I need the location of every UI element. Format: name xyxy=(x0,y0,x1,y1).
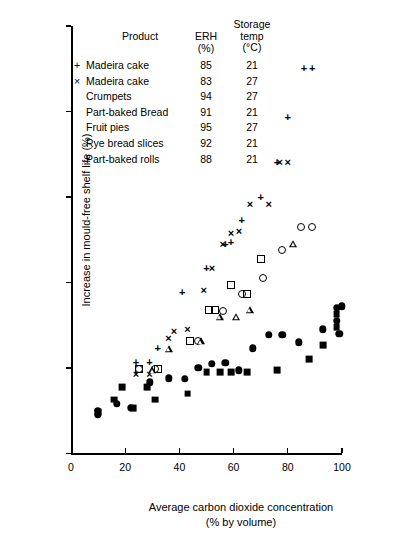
figure-scatter-plot: Product ERH (%) Storage temp (°C) +Madei… xyxy=(0,0,413,535)
y-axis-title: Increase in mould-free shelf life (%) xyxy=(80,70,92,370)
marker-filled-circle xyxy=(279,331,286,338)
x-axis-title-line1: Average carbon dioxide concentration xyxy=(71,500,411,515)
marker-filled-circle xyxy=(222,359,229,366)
x-axis-title-line2: (% by volume) xyxy=(71,515,411,530)
marker-filled-circle xyxy=(181,375,188,382)
x-tick-label: 80 xyxy=(273,462,303,473)
marker-filled-square xyxy=(130,405,137,412)
marker-filled-square xyxy=(306,356,313,363)
y-tick xyxy=(66,367,71,368)
x-tick xyxy=(233,448,234,453)
marker-filled-circle xyxy=(235,367,242,374)
marker-filled-square xyxy=(119,383,126,390)
marker-filled-circle xyxy=(336,330,343,337)
marker-open-circle xyxy=(297,223,305,231)
marker-filled-circle xyxy=(265,331,272,338)
x-axis-title: Average carbon dioxide concentration (% … xyxy=(71,500,411,530)
marker-filled-circle xyxy=(295,339,302,346)
x-tick-label: 60 xyxy=(219,462,249,473)
marker-filled-square xyxy=(244,369,251,376)
marker-open-circle xyxy=(278,246,286,254)
y-tick xyxy=(66,111,71,112)
marker-open-triangle xyxy=(232,313,240,320)
marker-open-triangle xyxy=(165,345,173,352)
x-tick-label: 0 xyxy=(56,462,86,473)
y-tick xyxy=(66,282,71,283)
marker-filled-square xyxy=(143,383,150,390)
marker-filled-circle xyxy=(208,360,215,367)
x-tick xyxy=(341,448,342,453)
x-axis-line xyxy=(71,453,342,455)
marker-filled-circle xyxy=(338,303,345,310)
plot-area: 0100200300400500 020406080100 ++++++++++… xyxy=(0,0,413,535)
marker-open-triangle xyxy=(148,367,156,374)
marker-filled-square xyxy=(333,323,340,330)
marker-filled-square xyxy=(320,341,327,348)
y-axis-line xyxy=(71,26,73,455)
marker-filled-circle xyxy=(249,345,256,352)
axes: 0100200300400500 020406080100 ++++++++++… xyxy=(71,26,342,455)
marker-filled-circle xyxy=(165,374,172,381)
marker-open-circle xyxy=(259,274,267,282)
x-tick xyxy=(125,448,126,453)
marker-filled-square xyxy=(184,390,191,397)
marker-filled-square xyxy=(203,369,210,376)
marker-filled-square xyxy=(227,369,234,376)
x-tick-label: 100 xyxy=(327,462,357,473)
y-tick xyxy=(66,196,71,197)
marker-open-square xyxy=(227,281,235,289)
marker-open-square xyxy=(257,255,265,263)
marker-filled-square xyxy=(333,311,340,318)
marker-filled-square xyxy=(111,396,118,403)
x-tick-label: 40 xyxy=(164,462,194,473)
marker-open-triangle xyxy=(216,313,224,320)
y-tick xyxy=(66,25,71,26)
marker-filled-square xyxy=(274,367,281,374)
marker-open-triangle xyxy=(197,338,205,345)
marker-filled-square xyxy=(95,409,102,416)
marker-open-square xyxy=(135,365,143,373)
y-tick xyxy=(66,453,71,454)
marker-open-triangle xyxy=(246,306,254,313)
marker-open-triangle xyxy=(289,240,297,247)
marker-open-circle xyxy=(308,223,316,231)
marker-open-square xyxy=(186,337,194,345)
marker-filled-circle xyxy=(195,364,202,371)
marker-open-square xyxy=(243,290,251,298)
marker-filled-circle xyxy=(319,326,326,333)
x-tick xyxy=(287,448,288,453)
x-tick xyxy=(179,448,180,453)
marker-filled-square xyxy=(152,396,159,403)
marker-filled-square xyxy=(217,369,224,376)
x-tick-label: 20 xyxy=(110,462,140,473)
